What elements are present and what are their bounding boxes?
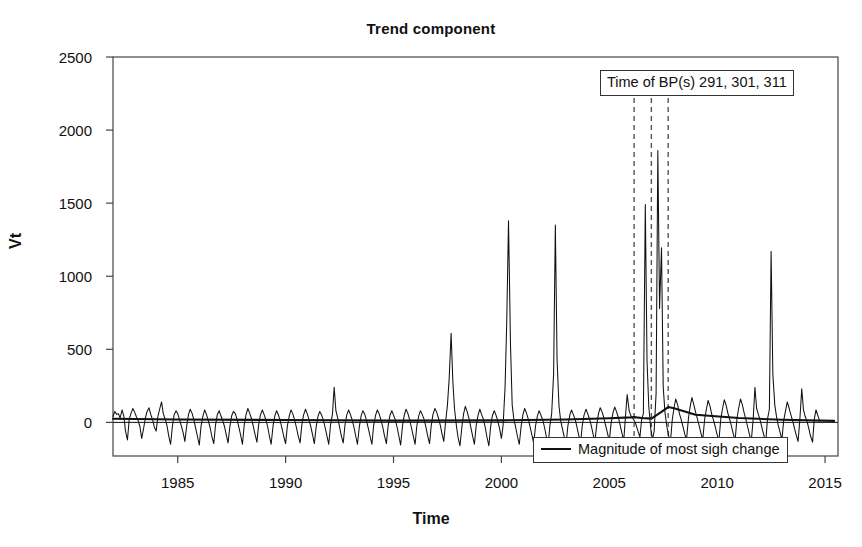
x-axis-label: Time: [0, 510, 862, 528]
y-axis-tick-label: 2000: [59, 122, 92, 139]
y-axis-label: Vt: [7, 233, 25, 249]
breakpoint-annotation-box: Time of BP(s) 291, 301, 311: [600, 70, 794, 96]
legend-entry-label: Magnitude of most sigh change: [578, 441, 780, 458]
chart-title: Trend component: [0, 20, 862, 37]
x-axis-tick-label: 1995: [377, 474, 410, 491]
x-axis-tick-label: 1985: [161, 474, 194, 491]
x-axis-tick-label: 2005: [593, 474, 626, 491]
breakpoint-annotation-text: Time of BP(s) 291, 301, 311: [607, 74, 787, 90]
plot-frame: [113, 57, 838, 456]
x-axis-tick-label: 2000: [485, 474, 518, 491]
y-axis-tick-label: 500: [67, 341, 92, 358]
y-axis-tick-label: 1500: [59, 195, 92, 212]
series-line-0: [113, 151, 820, 446]
x-axis-tick-label: 1990: [269, 474, 302, 491]
series-line-1: [113, 407, 834, 421]
y-axis-tick-label: 2500: [59, 49, 92, 66]
x-axis-tick-label: 2010: [700, 474, 733, 491]
chart-figure: Trend component Vt Time 0500100015002000…: [0, 0, 862, 547]
legend-line-swatch: [541, 448, 571, 450]
y-axis-tick-label: 1000: [59, 268, 92, 285]
y-axis-tick-label: 0: [84, 414, 92, 431]
x-axis-tick-label: 2015: [808, 474, 841, 491]
chart-legend: Magnitude of most sigh change: [533, 437, 788, 463]
